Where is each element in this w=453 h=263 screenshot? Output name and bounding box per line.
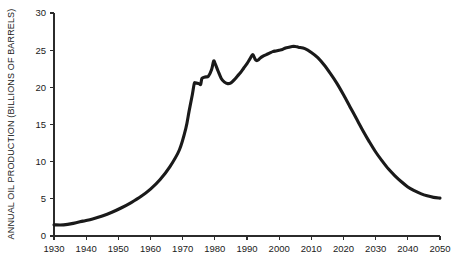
y-tick-label: 0 (41, 230, 46, 241)
x-tick-label: 1960 (140, 243, 161, 254)
x-tick-label: 1950 (108, 243, 129, 254)
y-tick-label: 20 (35, 82, 46, 93)
x-tick-label: 1990 (236, 243, 257, 254)
chart-canvas: ANNUAL OIL PRODUCTION (BILLIONS OF BARRE… (0, 0, 453, 263)
x-tick-label: 2000 (269, 243, 290, 254)
x-tick-label: 2010 (301, 243, 322, 254)
y-tick-label: 5 (41, 193, 46, 204)
x-tick-label: 1930 (43, 243, 64, 254)
y-axis-title: ANNUAL OIL PRODUCTION (BILLIONS OF BARRE… (6, 9, 16, 240)
oil-production-chart: ANNUAL OIL PRODUCTION (BILLIONS OF BARRE… (0, 0, 453, 263)
x-tick-label: 1980 (204, 243, 225, 254)
y-axis-ticks: 051015202530 (35, 7, 54, 241)
y-tick-label: 10 (35, 156, 46, 167)
x-tick-label: 2030 (365, 243, 386, 254)
y-tick-label: 25 (35, 45, 46, 56)
x-tick-label: 1970 (172, 243, 193, 254)
x-tick-label: 2050 (429, 243, 450, 254)
series-line (54, 46, 440, 225)
y-axis-title-text: ANNUAL OIL PRODUCTION (BILLIONS OF BARRE… (6, 9, 16, 240)
x-axis-ticks: 1930194019501960197019801990200020102020… (43, 236, 450, 254)
y-tick-label: 30 (35, 7, 46, 18)
series-group (54, 46, 440, 225)
y-tick-label: 15 (35, 119, 46, 130)
x-tick-label: 1940 (76, 243, 97, 254)
x-tick-label: 2040 (397, 243, 418, 254)
x-tick-label: 2020 (333, 243, 354, 254)
